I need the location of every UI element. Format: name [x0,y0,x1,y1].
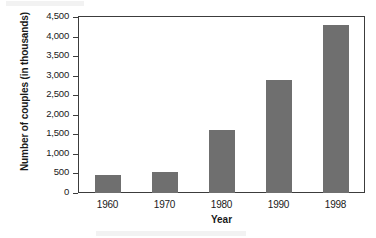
x-tick-label: 1998 [306,199,366,210]
y-tick-label: 1,500 [46,127,69,138]
bar [95,175,121,193]
x-tick-label: 1960 [78,199,138,210]
y-tick-label: 1,000 [46,147,69,158]
bar-chart-figure: Number of couples (in thousands) 05001,0… [0,0,376,238]
bar [209,130,235,193]
y-tick-label: 4,000 [46,30,69,41]
y-tick-label: 4,500 [46,10,69,21]
plot-area [79,17,364,193]
y-tick-label: 2,000 [46,108,69,119]
y-axis-title: Number of couples (in thousands) [19,2,30,182]
bar [323,25,349,193]
y-tick-label: 500 [54,166,69,177]
y-tick-label: 0 [64,186,69,197]
y-tick-label: 2,500 [46,88,69,99]
scan-artifact-bottom [96,231,246,236]
y-tick-label: 3,500 [46,49,69,60]
y-tick-mark [73,193,78,194]
x-axis-title: Year [78,214,365,225]
x-tick-label: 1970 [135,199,195,210]
x-tick-label: 1990 [249,199,309,210]
x-tick-label: 1980 [192,199,252,210]
y-tick-label: 3,000 [46,69,69,80]
bar [266,80,292,193]
bar [152,172,178,193]
